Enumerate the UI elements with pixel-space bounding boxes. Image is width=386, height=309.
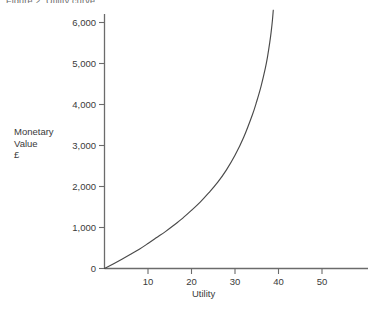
x-axis-tick-labels: 10 20 30 40 50 [143, 276, 328, 287]
y-tick-label: 3,000 [72, 140, 96, 151]
x-tick-label: 20 [186, 276, 197, 287]
x-tick-label: 30 [230, 276, 241, 287]
y-axis-title: Monetary Value £ [14, 126, 54, 161]
utility-curve-line [105, 10, 274, 268]
x-axis-ticks [148, 269, 322, 275]
y-tick-label: 4,000 [72, 99, 96, 110]
y-axis-group: 6,000 5,000 4,000 3,000 2,000 1,000 0 [72, 14, 104, 274]
x-axis-title: Utility [192, 288, 215, 299]
y-tick-label: 2,000 [72, 181, 96, 192]
y-tick-label: 6,000 [72, 17, 96, 28]
y-axis-ticks [99, 23, 105, 269]
figure-container: Figure 2: Utility curve 6,000 5,000 4,00… [0, 0, 386, 309]
chart-plot-area: 6,000 5,000 4,000 3,000 2,000 1,000 0 10… [0, 0, 386, 309]
y-tick-label: 5,000 [72, 58, 96, 69]
y-tick-label: 0 [91, 263, 96, 274]
y-tick-label: 1,000 [72, 222, 96, 233]
x-tick-label: 50 [317, 276, 328, 287]
y-axis-tick-labels: 6,000 5,000 4,000 3,000 2,000 1,000 0 [72, 17, 96, 274]
x-axis-group: 10 20 30 40 50 [105, 269, 369, 288]
x-tick-label: 40 [273, 276, 284, 287]
x-tick-label: 10 [143, 276, 154, 287]
